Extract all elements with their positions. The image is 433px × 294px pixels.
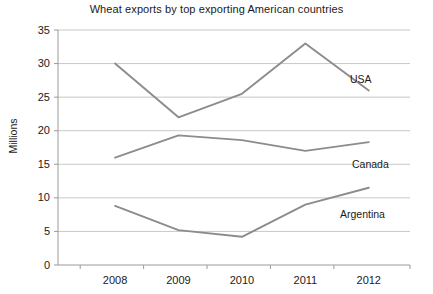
y-axis-tick-label: 5 xyxy=(20,226,50,237)
y-axis-tick-label: 30 xyxy=(20,58,50,69)
y-axis-tick-label: 10 xyxy=(20,192,50,203)
x-axis-tick-label: 2011 xyxy=(275,275,335,286)
gridlines xyxy=(58,30,410,231)
y-axis-tick-label: 20 xyxy=(20,125,50,136)
y-axis-tick-label: 35 xyxy=(20,25,50,36)
series-line-usa xyxy=(115,43,369,117)
series-line-canada xyxy=(115,135,369,157)
series-label-argentina: Argentina xyxy=(340,208,385,220)
series-label-canada: Canada xyxy=(352,158,389,170)
series-label-usa: USA xyxy=(350,73,372,85)
y-axis-tick-label: 0 xyxy=(20,260,50,271)
y-axis-tick-label: 15 xyxy=(20,159,50,170)
axis-ticks xyxy=(54,30,410,269)
x-axis-tick-label: 2012 xyxy=(339,275,399,286)
line-chart: Wheat exports by top exporting American … xyxy=(0,0,433,294)
plot-area xyxy=(0,0,433,294)
x-axis-tick-label: 2008 xyxy=(85,275,145,286)
y-axis-tick-label: 25 xyxy=(20,92,50,103)
x-axis-tick-label: 2009 xyxy=(149,275,209,286)
x-axis-tick-label: 2010 xyxy=(212,275,272,286)
axis-lines xyxy=(58,30,410,265)
series-lines xyxy=(115,43,369,236)
series-line-argentina xyxy=(115,188,369,237)
